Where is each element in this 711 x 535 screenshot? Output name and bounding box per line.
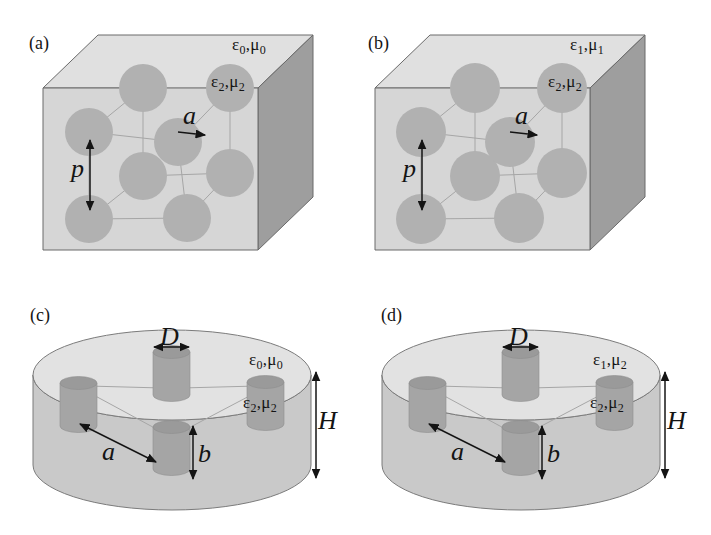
dim-label-p: p xyxy=(403,156,416,182)
cylinder-left xyxy=(409,377,446,433)
dim-label-a: a xyxy=(102,439,115,465)
sphere xyxy=(494,193,544,243)
panel-letter: (d) xyxy=(381,306,402,324)
inclusion-material-label: ε2,μ2 xyxy=(211,73,245,93)
sphere xyxy=(537,148,587,198)
dim-label-p: p xyxy=(71,156,84,182)
panel-a: (a) ε0,μ0 ε2,μ2 p a xyxy=(0,0,340,275)
panel-letter: (b) xyxy=(368,34,389,52)
cylinder-front xyxy=(502,421,539,476)
dim-label-b: b xyxy=(198,441,211,467)
panel-b: (b) ε1,μ1 ε2,μ2 p a xyxy=(332,0,672,275)
mu-subscript: 0 xyxy=(277,358,283,372)
sphere xyxy=(450,63,500,113)
dim-label-a: a xyxy=(183,103,196,129)
mu-subscript: 2 xyxy=(239,80,245,94)
cylinder-front xyxy=(153,421,190,476)
sphere xyxy=(396,107,446,157)
mu-subscript: 2 xyxy=(271,401,277,415)
mu-symbol: μ xyxy=(588,35,597,54)
sphere xyxy=(119,152,167,200)
sphere xyxy=(65,195,113,243)
cylinder-left xyxy=(60,377,97,433)
matrix-material-label: ε0,μ0 xyxy=(249,351,283,371)
dim-label-H: H xyxy=(318,408,337,434)
inclusion-material-label: ε2,μ2 xyxy=(590,394,624,414)
mu-subscript: 0 xyxy=(260,43,266,57)
inclusion-material-label: ε2,μ2 xyxy=(243,394,277,414)
sphere xyxy=(65,108,113,156)
sphere xyxy=(119,64,167,112)
sphere xyxy=(163,194,211,242)
mu-symbol: μ xyxy=(261,393,270,412)
matrix-material-label: ε0,μ0 xyxy=(232,36,266,56)
matrix-material-label: ε1,μ1 xyxy=(570,36,604,56)
dim-label-D: D xyxy=(509,324,528,350)
cylinder-back xyxy=(502,346,539,402)
mu-subscript: 2 xyxy=(618,401,624,415)
mu-symbol: μ xyxy=(267,350,276,369)
mu-symbol: μ xyxy=(229,72,238,91)
dim-label-a: a xyxy=(451,439,464,465)
panel-letter: (c) xyxy=(30,306,50,324)
panel-letter: (a) xyxy=(29,34,49,52)
mu-symbol: μ xyxy=(566,72,575,91)
figure-canvas: (a) ε0,μ0 ε2,μ2 p a xyxy=(0,0,711,535)
mu-symbol: μ xyxy=(250,35,259,54)
panel-c: (c) ε0,μ0 ε2,μ2 D a b H xyxy=(0,280,345,530)
dim-label-b: b xyxy=(547,441,560,467)
cube-graphic-a xyxy=(0,0,340,272)
inclusion-material-label: ε2,μ2 xyxy=(548,73,582,93)
mu-subscript: 2 xyxy=(576,80,582,94)
dim-label-H: H xyxy=(667,408,686,434)
matrix-material-label: ε1,μ2 xyxy=(593,351,627,371)
mu-symbol: μ xyxy=(608,393,617,412)
disk-graphic-c xyxy=(0,280,345,530)
mu-subscript: 2 xyxy=(621,358,627,372)
panel-d: (d) ε1,μ2 ε2,μ2 D a b H xyxy=(349,280,694,530)
dim-label-a: a xyxy=(515,103,528,129)
cylinder-back xyxy=(153,346,190,402)
mu-symbol: μ xyxy=(611,350,620,369)
sphere xyxy=(206,149,254,197)
sphere xyxy=(396,194,446,244)
dim-label-D: D xyxy=(160,324,179,350)
mu-subscript: 1 xyxy=(598,43,604,57)
